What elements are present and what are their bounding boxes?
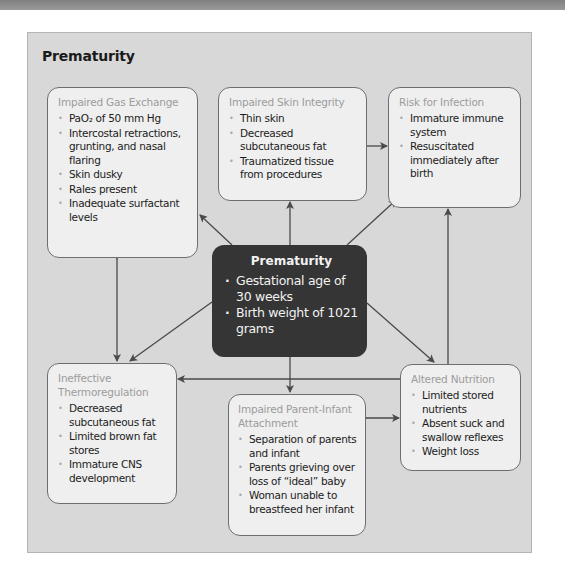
list-item: Rales present [58, 183, 189, 197]
box-heading: Impaired Parent-Infant Attachment [238, 402, 357, 430]
list-item: Absent suck and swallow reflexes [411, 417, 512, 444]
list-item: Limited brown fat stores [58, 430, 168, 457]
list-item: Inadequate surfactant levels [58, 197, 189, 224]
list-item: PaO₂ of 50 mm Hg [58, 112, 189, 126]
list-item: Immature CNS development [58, 458, 168, 485]
central-node-prematurity: Prematurity Gestational age of 30 weeks … [212, 245, 367, 357]
arrow-center-to-nutrition [367, 303, 434, 362]
list-item: Woman unable to breastfeed her infant [238, 489, 357, 516]
list-item: Limited stored nutrients [411, 389, 512, 416]
list-item: Weight loss [411, 445, 512, 459]
list-item: Gestational age of 30 weeks [224, 273, 359, 305]
arrow-center-to-thermo [130, 302, 212, 361]
box-impaired-gas-exchange: Impaired Gas Exchange PaO₂ of 50 mm Hg I… [47, 87, 198, 258]
list-item: Resuscitated immediately after birth [399, 140, 512, 181]
box-heading: Impaired Gas Exchange [58, 95, 189, 109]
arrow-center-to-infection [347, 200, 396, 245]
box-risk-for-infection: Risk for Infection Immature immune syste… [388, 87, 521, 208]
list-item: Parents grieving over loss of “ideal” ba… [238, 461, 357, 488]
box-heading: Risk for Infection [399, 95, 512, 109]
list-item: Skin dusky [58, 168, 189, 182]
list-item: Decreased subcutaneous fat [229, 127, 358, 154]
box-heading: Altered Nutrition [411, 372, 512, 386]
box-heading: Ineffective Thermoregulation [58, 371, 168, 399]
list-item: Birth weight of 1021 grams [224, 305, 359, 337]
arrow-center-to-gas-exchange [200, 215, 232, 245]
box-heading: Impaired Skin Integrity [229, 95, 358, 109]
box-impaired-parent-infant-attachment: Impaired Parent-Infant Attachment Separa… [228, 394, 366, 536]
list-item: Separation of parents and infant [238, 433, 357, 460]
list-item: Thin skin [229, 112, 358, 126]
box-impaired-skin-integrity: Impaired Skin Integrity Thin skin Decrea… [218, 87, 367, 201]
list-item: Immature immune system [399, 112, 512, 139]
box-altered-nutrition: Altered Nutrition Limited stored nutrien… [400, 364, 521, 471]
list-item: Decreased subcutaneous fat [58, 402, 168, 429]
list-item: Intercostal retractions, grunting, and n… [58, 127, 189, 168]
central-heading: Prematurity [224, 253, 359, 269]
box-ineffective-thermoregulation: Ineffective Thermoregulation Decreased s… [47, 363, 177, 504]
list-item: Traumatized tissue from procedures [229, 155, 358, 182]
